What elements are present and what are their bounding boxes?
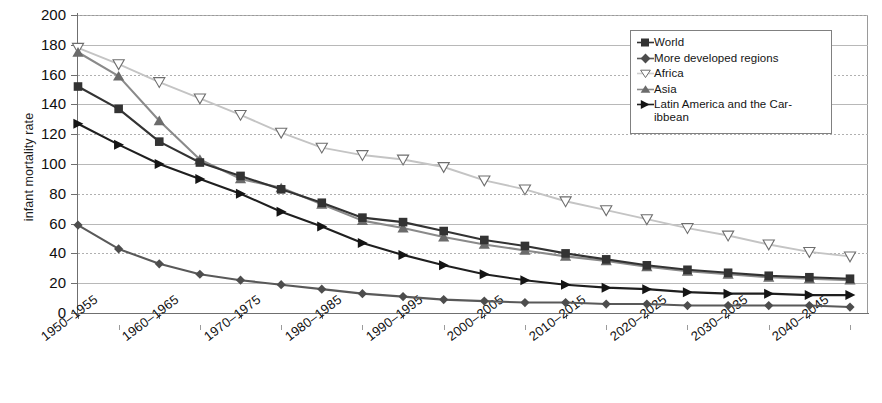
- legend-label: Asia: [654, 83, 677, 96]
- triangle-right-marker-icon: [637, 98, 654, 111]
- x-axis-tick: [119, 325, 120, 330]
- y-axis-tick-label: 160: [6, 67, 66, 82]
- y-axis-tick-label: 80: [6, 186, 66, 201]
- x-axis-tick: [281, 325, 282, 330]
- legend-label: Africa: [654, 67, 684, 80]
- x-axis-tick: [606, 325, 607, 330]
- legend-label: Latin America and the Car- ibbean: [654, 98, 792, 124]
- legend-item-latin-america-caribbean[interactable]: Latin America and the Car- ibbean: [637, 98, 825, 124]
- x-axis-tick: [687, 325, 688, 330]
- gridline: [78, 283, 868, 284]
- y-axis-tick: [71, 134, 78, 135]
- y-axis-tick-label: 200: [6, 7, 66, 22]
- legend-item-more-developed-regions[interactable]: More developed regions: [637, 52, 825, 65]
- gridline: [78, 164, 868, 165]
- y-axis-tick: [71, 224, 78, 225]
- gridline: [78, 134, 868, 135]
- x-axis-tick: [525, 325, 526, 330]
- triangle-down-marker-icon: [637, 67, 654, 80]
- x-axis-tick: [769, 325, 770, 330]
- y-axis-tick: [71, 253, 78, 254]
- legend-label: More developed regions: [654, 52, 778, 65]
- x-axis-tick: [444, 325, 445, 330]
- y-axis-tick-label: 180: [6, 37, 66, 52]
- gridline: [78, 15, 868, 16]
- gridline: [78, 224, 868, 225]
- chart-legend: World More developed regions Africa: [630, 30, 832, 134]
- legend-item-africa[interactable]: Africa: [637, 67, 825, 80]
- x-axis-tick: [200, 325, 201, 330]
- y-axis-tick: [71, 194, 78, 195]
- y-axis-tick: [71, 104, 78, 105]
- square-marker-icon: [637, 36, 654, 49]
- y-axis-tick-label: 60: [6, 216, 66, 231]
- triangle-up-marker-icon: [637, 83, 654, 96]
- legend-item-world[interactable]: World: [637, 36, 825, 49]
- legend-item-asia[interactable]: Asia: [637, 83, 825, 96]
- y-axis-tick-label: 140: [6, 96, 66, 111]
- y-axis-tick-label: 20: [6, 275, 66, 290]
- y-axis-tick: [71, 75, 78, 76]
- y-axis-tick-label: 120: [6, 126, 66, 141]
- legend-label-line1: Latin America and the Car-: [654, 98, 792, 110]
- legend-label-line2: ibbean: [654, 111, 792, 124]
- gridline: [78, 194, 868, 195]
- y-axis-tick: [71, 164, 78, 165]
- infant-mortality-chart: infant mortality rate 200180160140120100…: [0, 0, 882, 403]
- gridline: [78, 253, 868, 254]
- y-axis-tick: [71, 45, 78, 46]
- y-axis-tick: [71, 15, 78, 16]
- y-axis-tick-label: 100: [6, 156, 66, 171]
- x-axis-tick: [850, 325, 851, 330]
- diamond-marker-icon: [637, 52, 654, 65]
- legend-label: World: [654, 36, 684, 49]
- x-axis-tick: [362, 325, 363, 330]
- y-axis-tick-label: 40: [6, 245, 66, 260]
- y-axis-tick: [71, 283, 78, 284]
